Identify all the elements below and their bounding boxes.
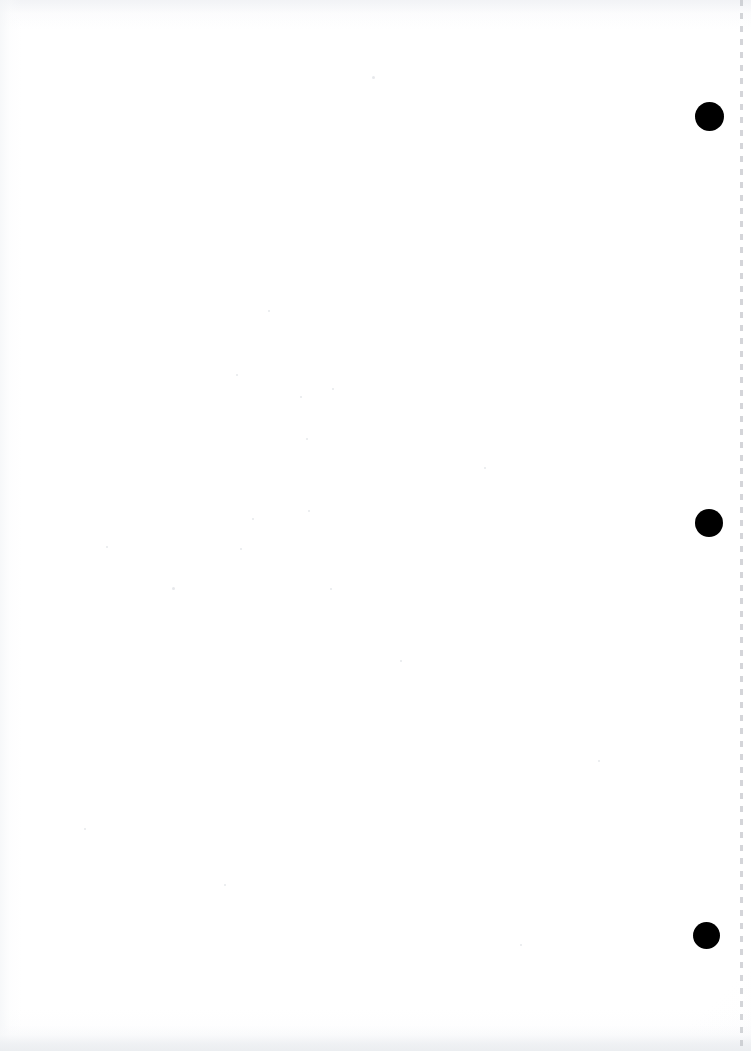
scanned-page-canvas [0,0,751,1051]
dot-mark-middle [695,509,723,537]
paper-surface [0,0,751,1051]
dot-mark-bottom [693,922,720,949]
dot-mark-top [695,102,724,131]
